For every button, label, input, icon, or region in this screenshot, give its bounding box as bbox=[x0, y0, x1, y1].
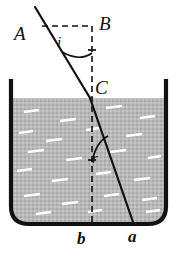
label-point-b-upper: B bbox=[99, 14, 111, 33]
label-point-a-lower: a bbox=[128, 228, 137, 245]
label-point-a-upper: A bbox=[14, 24, 26, 43]
label-point-c: C bbox=[95, 78, 108, 97]
label-angle-incidence: i bbox=[57, 35, 61, 50]
label-angle-refraction: r bbox=[92, 151, 98, 166]
label-point-b-lower: b bbox=[77, 230, 86, 247]
diagram-canvas bbox=[0, 0, 182, 260]
refraction-diagram: A B C i r b a bbox=[0, 0, 182, 260]
angle-of-incidence-arc bbox=[62, 52, 92, 57]
water-body bbox=[11, 98, 167, 226]
